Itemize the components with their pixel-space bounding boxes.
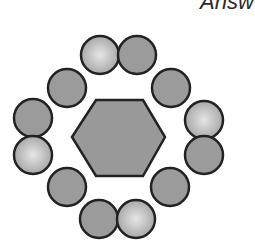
- circle-lower-right-dark: [151, 168, 189, 206]
- circle-top-right-dark: [118, 36, 156, 74]
- circle-bottom-right-light: [117, 200, 155, 238]
- circle-lower-left-dark: [48, 168, 86, 206]
- circle-upper-right-dark: [152, 69, 190, 107]
- circle-right-lower-dark: [185, 136, 223, 174]
- central-hexagon: [72, 100, 165, 176]
- circle-left-lower-light: [14, 136, 52, 174]
- circle-upper-left-dark: [48, 69, 86, 107]
- hexagon-circle-diagram: [0, 0, 255, 247]
- circle-top-left-light: [81, 36, 119, 74]
- circle-left-upper-dark: [14, 99, 52, 137]
- circle-right-upper-light: [185, 101, 223, 139]
- circle-bottom-left-dark: [80, 200, 118, 238]
